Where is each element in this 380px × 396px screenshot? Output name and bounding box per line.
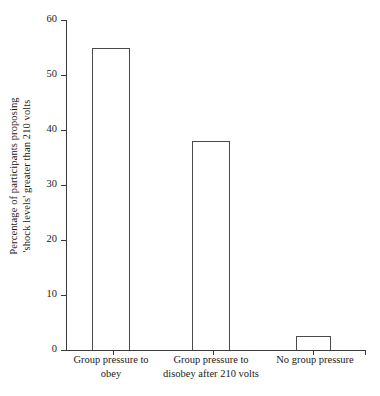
bar-chart: Percentage of participants proposing 'sh… — [0, 0, 380, 396]
y-tick-60: 60 — [61, 20, 66, 21]
x-category-label-2-line-2: disobey after 210 volts — [152, 367, 270, 381]
y-tick-label-40: 40 — [47, 123, 58, 134]
y-tick-label-30: 30 — [47, 178, 58, 189]
y-axis-title-line-2: 'shock levels' greater than 210 volts — [20, 97, 33, 254]
x-category-label-3: No group pressure — [258, 353, 372, 367]
y-tick-20: 20 — [61, 240, 66, 241]
y-axis-title: Percentage of participants proposing 'sh… — [0, 0, 40, 352]
y-tick-label-50: 50 — [47, 68, 58, 79]
bar-group-pressure-to-obey — [92, 48, 130, 351]
x-category-label-2-line-1: Group pressure to — [152, 353, 270, 367]
y-tick-50: 50 — [61, 75, 66, 76]
y-axis-line — [66, 20, 67, 351]
x-axis-line — [66, 350, 366, 351]
bar-group-pressure-to-disobey — [192, 141, 230, 350]
x-category-label-3-line-1: No group pressure — [258, 353, 372, 367]
y-tick-0: 0 — [61, 350, 66, 351]
x-axis-labels: Group pressure to obey Group pressure to… — [66, 353, 366, 393]
bar-no-group-pressure — [296, 336, 331, 350]
y-axis-title-line-1: Percentage of participants proposing — [7, 97, 20, 254]
x-category-label-2: Group pressure to disobey after 210 volt… — [152, 353, 270, 381]
y-tick-30: 30 — [61, 185, 66, 186]
y-tick-label-20: 20 — [47, 233, 58, 244]
plot-area: 0 10 20 30 40 50 60 — [66, 20, 366, 350]
y-tick-label-10: 10 — [47, 288, 58, 299]
y-tick-40: 40 — [61, 130, 66, 131]
y-tick-label-60: 60 — [47, 13, 58, 24]
y-tick-10: 10 — [61, 295, 66, 296]
